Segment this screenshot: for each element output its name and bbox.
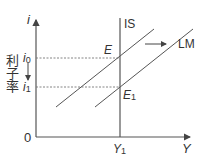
- y1-label: Y1: [113, 142, 126, 156]
- y-axis-label: i: [27, 12, 31, 27]
- i0-label: i0: [23, 51, 31, 65]
- point-e-label: E: [104, 43, 113, 57]
- x-axis-label: Y: [182, 141, 192, 156]
- i1-label: i1: [23, 80, 31, 94]
- point-e1-label: E1: [123, 88, 136, 102]
- lm-curve-original: [56, 29, 154, 107]
- origin-label: 0: [24, 130, 31, 145]
- lm-label: LM: [178, 37, 195, 51]
- is-lm-diagram: i i0 i1 0 Y1 Y IS LM E E1: [0, 0, 213, 157]
- is-label: IS: [124, 17, 135, 31]
- interest-rate-axis-text: 利子率: [4, 54, 18, 93]
